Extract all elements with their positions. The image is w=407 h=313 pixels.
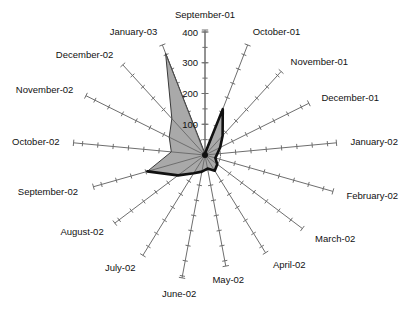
radial-tick-label-300: 300 [182,57,198,68]
category-label-7: April-02 [273,259,306,270]
axis-spoke-cap-13 [73,140,74,146]
category-label-10: July-02 [105,262,136,273]
category-label-11: August-02 [60,226,103,237]
category-label-0: September-01 [175,9,235,20]
axis-spoke-cap-4 [336,140,337,146]
radial-tick-label-100: 100 [182,119,198,130]
category-label-16: January-03 [110,26,158,37]
category-label-2: November-01 [291,56,349,67]
radial-tick-label-400: 400 [182,27,198,38]
category-label-6: March-02 [315,233,355,244]
radar-chart-svg: 100200300400 September-01October-01Novem… [0,0,407,313]
chart-center-point [202,152,208,158]
category-label-9: June-02 [162,288,196,299]
category-label-8: May-02 [212,274,244,285]
category-label-3: December-01 [321,92,379,103]
category-label-14: November-02 [16,84,74,95]
category-label-13: October-02 [12,136,60,147]
category-label-12: September-02 [18,186,78,197]
radar-chart: 100200300400 September-01October-01Novem… [0,0,407,313]
radial-tick-label-200: 200 [182,88,198,99]
category-label-1: October-01 [253,26,301,37]
category-label-4: January-02 [350,136,398,147]
category-label-5: February-02 [346,190,398,201]
category-label-15: December-02 [56,49,114,60]
